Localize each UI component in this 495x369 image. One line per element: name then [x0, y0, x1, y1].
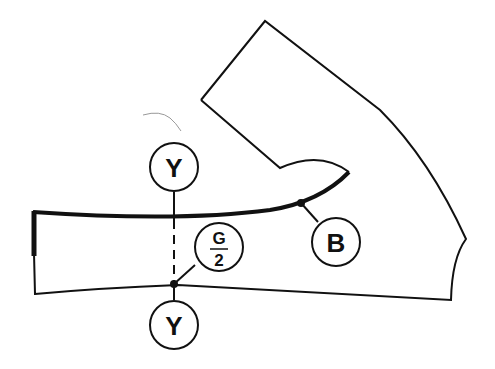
leader-g2 [174, 265, 195, 284]
part-outline [33, 21, 466, 300]
callout-y-bottom: Y [150, 301, 198, 349]
notch-edge [201, 100, 349, 172]
callout-g-half: G 2 [195, 223, 243, 271]
label-y-top: Y [165, 153, 182, 183]
callout-b: B [312, 218, 360, 266]
label-g-denominator: 2 [214, 251, 223, 270]
callout-y-top: Y [150, 143, 198, 191]
label-g-numerator: G [212, 229, 225, 248]
label-b: B [327, 228, 346, 258]
label-y-bottom: Y [165, 311, 182, 341]
leader-b [301, 203, 318, 222]
stray-mark [143, 113, 181, 131]
diagram-canvas: Y Y G 2 B [0, 0, 495, 369]
